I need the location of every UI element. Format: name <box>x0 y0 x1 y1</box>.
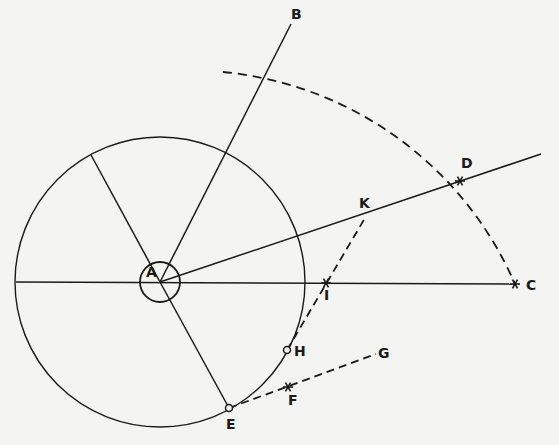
point-label-e: E <box>226 416 236 432</box>
star-marker-c-icon <box>510 280 520 289</box>
point-label-f: F <box>288 392 298 408</box>
radius-AE <box>160 282 229 408</box>
geometry-diagram: ABCDEFGHIK <box>0 0 559 445</box>
star-marker-d-icon <box>455 177 465 186</box>
point-label-h: H <box>294 343 306 359</box>
open-marker-h-icon <box>284 347 291 354</box>
point-label-c: C <box>526 277 536 293</box>
point-label-d: D <box>461 155 473 171</box>
point-label-k: K <box>359 195 371 211</box>
point-label-b: B <box>291 6 302 22</box>
line-EG <box>229 354 376 408</box>
radius-upper-left <box>91 155 160 282</box>
ray-AD <box>160 154 541 282</box>
point-label-i: I <box>324 287 329 303</box>
open-marker-e-icon <box>226 405 233 412</box>
star-marker-f-icon <box>283 383 293 392</box>
diameter-horizontal <box>16 282 515 284</box>
construction-figure: ABCDEFGHIK <box>0 0 559 445</box>
point-label-a: A <box>146 264 157 280</box>
point-label-g: G <box>378 345 390 361</box>
ray-AB <box>160 24 291 282</box>
